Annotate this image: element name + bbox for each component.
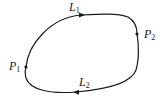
closed-curve-diagram: L1 L2 P1 P2 [0,0,161,104]
label-l1: L1 [68,0,80,15]
path-l1 [26,14,137,67]
label-l2: L2 [78,75,90,90]
label-p2: P2 [143,27,155,42]
point-p2-dot [135,32,138,35]
arrow-right-icon [79,13,85,18]
arrow-left-icon [73,90,79,95]
label-p1: P1 [8,59,20,74]
point-p1-dot [24,65,27,68]
